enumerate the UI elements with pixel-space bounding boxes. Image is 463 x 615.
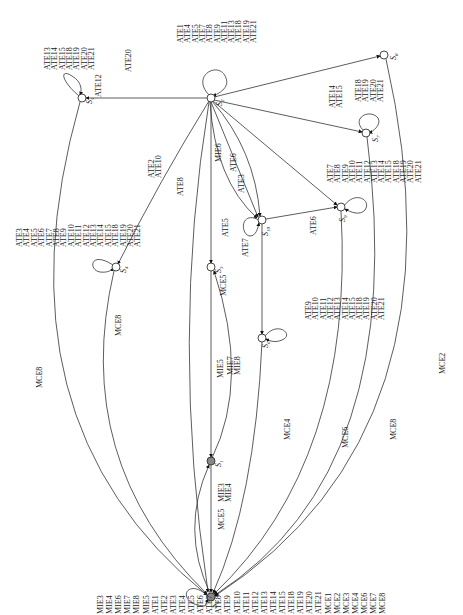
transition-label: ATE21 [87, 47, 96, 70]
label-s8-s0: MCE2 [438, 353, 447, 374]
transition-label: ATE2 [160, 595, 169, 614]
transition-label: ATE15 [278, 591, 287, 614]
transition-label: ATE21 [376, 79, 385, 102]
transition-label: MIE3 [96, 595, 105, 614]
s7-loop-labels: ATE18ATE19ATE20ATE21 [354, 79, 385, 102]
s6-loop-labels: ATE9ATE10ATE11ATE12ATE13ATE14ATE15ATE18A… [304, 297, 386, 320]
state-label-s9: S9 [338, 215, 348, 222]
s0-loop-labels: MIE3MIE4MIE6MIE7MIE8MIE5ATE1ATE2ATE3ATE4… [96, 591, 387, 614]
transition-label: ATE21 [314, 591, 323, 614]
transition-label: ATE10 [154, 155, 163, 178]
edge-s5-s0 [54, 102, 207, 595]
transition-label: MIE5 [142, 595, 151, 614]
s0-s1-labels: MIE3MIE4 [217, 483, 233, 502]
s2-loop-labels: ATE1ATE4ATE5ATE7ATE8ATE9ATE11ATE13ATE18A… [176, 20, 258, 43]
transition-label: ATE11 [242, 592, 251, 614]
transition-label: ATE4 [178, 595, 187, 614]
edge-labels: ATE12 ATE20 ATE6 ATE3 ATE8 ATE5 ATE7 ATE… [35, 49, 447, 530]
transition-label: ATE9 [223, 595, 232, 614]
transition-label: ATE7 [205, 595, 214, 614]
transition-label: ATE21 [133, 224, 142, 247]
label-s2-s10-ate5: ATE5 [221, 218, 230, 237]
state-label-s2: S2 [215, 99, 225, 106]
transition-label: ATE1 [151, 595, 160, 614]
state-s6[interactable] [258, 334, 266, 342]
transition-label: ATE15 [335, 85, 344, 108]
state-transition-diagram: S0 S1 S2 S3 S4 S5 S6 S7 S8 S9 S10 ATE12 … [0, 0, 463, 615]
loop-s6 [265, 329, 287, 342]
state-label-s8: S8 [389, 53, 399, 60]
transition-label: ATE12 [251, 591, 260, 614]
label-s1-s0: MCE5 [217, 509, 226, 530]
loop-s9 [344, 198, 367, 214]
transition-label: MCE6 [360, 593, 369, 614]
transition-label: ATE8 [214, 595, 223, 614]
transition-label: ATE13 [260, 591, 269, 614]
loop-s2 [203, 70, 227, 96]
transition-label: ATE19 [296, 591, 305, 614]
state-labels: S0 S1 S2 S3 S4 S5 S6 S7 S8 S9 S10 [85, 53, 399, 608]
label-s5-s0: MCE8 [35, 367, 44, 388]
label-s10-loop: ATE7 [241, 238, 250, 257]
state-label-s10: S10 [261, 227, 271, 237]
edge-s10-s9 [266, 207, 337, 219]
transition-label: ATE14 [269, 591, 278, 614]
state-s7[interactable] [362, 129, 370, 137]
label-s6-s0: MCE4 [283, 419, 292, 440]
transition-label: MCE3 [342, 593, 351, 614]
s5-loop-labels: ATE13ATE14ATE15ATE18ATE19ATE20ATE21 [43, 47, 96, 70]
state-s10[interactable] [258, 216, 266, 224]
label-s4-s0: MCE8 [114, 315, 123, 336]
transition-label: MIE4 [224, 483, 233, 502]
states [78, 51, 388, 601]
label-s2-s9: ATE6 [229, 153, 238, 172]
state-label-s1: S1 [214, 461, 224, 468]
loop-s4 [93, 259, 113, 272]
state-label-s7: S7 [371, 135, 381, 142]
transition-label: ATE6 [196, 595, 205, 614]
transition-label: ATE21 [249, 20, 258, 43]
s9-loop-labels: ATE7ATE8ATE9ATE10ATE11ATE12ATE13ATE14ATE… [326, 160, 423, 183]
transition-label: MIE8 [233, 356, 242, 375]
label-s3-s1: MIE5 [216, 359, 225, 378]
transition-label: ATE21 [414, 160, 423, 183]
edge-s2-s0 [189, 102, 209, 592]
transition-label: ATE3 [169, 595, 178, 614]
edge-s0-s1 [195, 465, 210, 593]
edges [54, 56, 407, 596]
transition-label: MIE8 [132, 595, 141, 614]
s2-s4-labels: ATE2ATE10 [147, 155, 163, 178]
transition-label: MIE4 [105, 595, 114, 614]
label-s2-s10-ate3: ATE3 [237, 174, 246, 193]
label-s2-s10-ate8: ATE8 [176, 177, 185, 196]
label-s2-s8: ATE20 [124, 49, 133, 72]
transition-label: MCE8 [378, 593, 387, 614]
label-s2-s5: ATE12 [94, 74, 103, 97]
transition-label: ATE5 [187, 595, 196, 614]
label-s2-s3: MIE6 [214, 143, 223, 162]
transition-label: ATE18 [287, 591, 296, 614]
transition-label: MCE1 [324, 593, 333, 614]
transition-label: ATE21 [377, 297, 386, 320]
transition-label: MIE7 [123, 595, 132, 614]
loop-s5 [64, 73, 81, 96]
transition-label: MCE4 [351, 593, 360, 614]
s1-s3-labels: MIE7MIE8 [226, 356, 242, 375]
state-label-s3: S3 [214, 266, 224, 273]
state-s9[interactable] [337, 203, 345, 211]
transition-label: MIE6 [114, 595, 123, 614]
state-s2[interactable] [207, 94, 215, 102]
transition-label: MCE7 [369, 593, 378, 614]
s2-s7-labels: ATE14ATE15 [328, 85, 344, 108]
loop-s10 [243, 218, 259, 236]
state-s8[interactable] [380, 51, 388, 59]
transition-label: MCE2 [333, 593, 342, 614]
label-s7-s0: MCE8 [389, 419, 398, 440]
label-s10-s9: ATE6 [309, 216, 318, 235]
transition-label: ATE10 [233, 591, 242, 614]
s4-loop-labels: ATE3ATE4ATE5ATE6ATE7ATE8ATE9ATE10ATE11AT… [15, 224, 142, 247]
label-s9-s0: MCE6 [341, 427, 350, 448]
state-label-s4: S4 [119, 266, 129, 273]
transition-label: ATE20 [305, 591, 314, 614]
label-s2-s0: MCE5 [219, 275, 228, 296]
